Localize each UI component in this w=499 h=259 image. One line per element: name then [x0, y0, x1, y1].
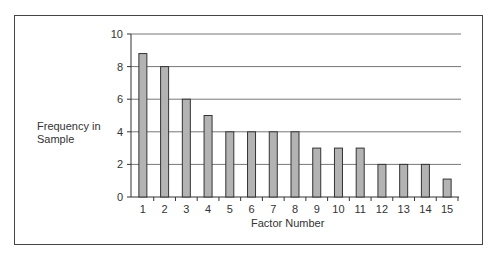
- x-tick-label: 13: [398, 203, 410, 215]
- bar: [182, 99, 190, 197]
- bar: [400, 164, 408, 197]
- y-tick-label: 2: [117, 158, 123, 170]
- bar: [421, 164, 429, 197]
- x-tick-label: 3: [183, 203, 189, 215]
- bar: [226, 132, 234, 197]
- bar: [269, 132, 277, 197]
- x-tick-label: 6: [248, 203, 254, 215]
- bar: [204, 116, 212, 198]
- x-tick-label: 7: [270, 203, 276, 215]
- bar: [313, 148, 321, 197]
- x-tick-label: 5: [227, 203, 233, 215]
- y-tick-label: 6: [117, 93, 123, 105]
- x-tick-label: 8: [292, 203, 298, 215]
- bar: [291, 132, 299, 197]
- x-tick-label: 2: [162, 203, 168, 215]
- bar: [248, 132, 256, 197]
- y-tick-label: 0: [117, 191, 123, 203]
- x-tick-label: 11: [354, 203, 365, 215]
- x-tick-label: 4: [205, 203, 211, 215]
- y-tick-label: 10: [111, 28, 123, 40]
- x-tick-label: 9: [314, 203, 320, 215]
- y-tick-label: 8: [117, 61, 123, 73]
- x-tick-label: 14: [419, 203, 431, 215]
- bar: [139, 54, 147, 197]
- bar-chart: 0246810123456789101112131415: [0, 0, 499, 259]
- bar: [356, 148, 364, 197]
- y-tick-label: 4: [117, 126, 123, 138]
- x-tick-label: 12: [376, 203, 388, 215]
- x-tick-label: 10: [332, 203, 344, 215]
- bar: [161, 67, 169, 197]
- bar: [378, 164, 386, 197]
- bar: [443, 179, 451, 197]
- x-tick-label: 15: [441, 203, 453, 215]
- x-tick-label: 1: [140, 203, 146, 215]
- bar: [334, 148, 342, 197]
